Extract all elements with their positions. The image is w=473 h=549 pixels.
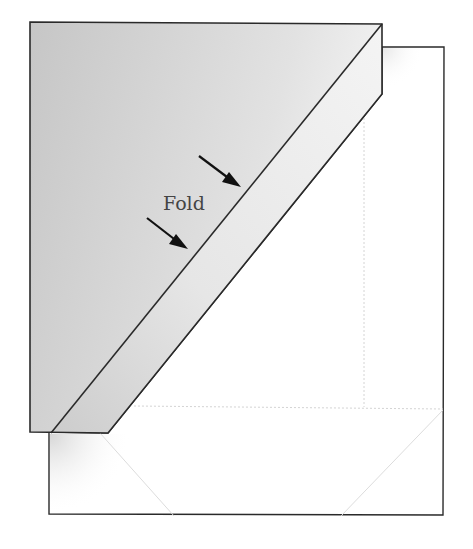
corner-shade — [50, 434, 130, 514]
fold-diagram: Fold — [0, 0, 473, 549]
top-shade — [383, 48, 423, 88]
fold-label: Fold — [163, 192, 205, 214]
